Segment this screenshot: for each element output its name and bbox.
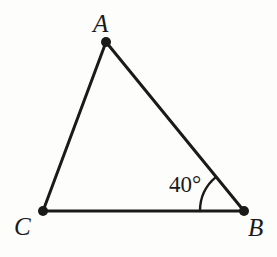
vertex-label-c: C [14, 214, 31, 239]
triangle-diagram-svg [0, 0, 277, 257]
vertex-dot-a [101, 37, 111, 47]
geometry-figure: A C B 40° [0, 0, 277, 257]
vertex-dot-c [38, 206, 48, 216]
vertex-label-a: A [93, 11, 108, 36]
triangle-side-ca [43, 42, 106, 211]
angle-measure-label-b: 40° [169, 173, 201, 196]
angle-arc-b [200, 177, 216, 211]
vertex-label-b: B [248, 215, 263, 240]
